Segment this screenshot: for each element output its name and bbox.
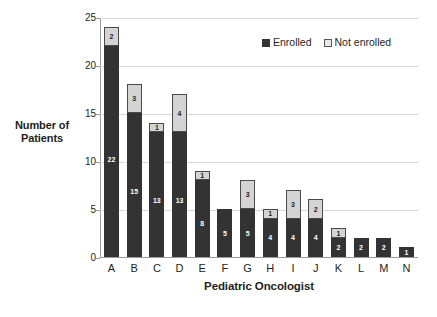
bar-group-j[interactable]: 24: [308, 18, 323, 257]
bar-value-label: 13: [176, 197, 184, 204]
bar-segment-not-enrolled[interactable]: 1: [195, 171, 210, 181]
bar-segment-not-enrolled[interactable]: 1: [263, 209, 278, 219]
bar-segment-enrolled[interactable]: 1: [399, 247, 414, 257]
bar-group-g[interactable]: 35: [240, 18, 255, 257]
bar-segment-not-enrolled[interactable]: 4: [172, 94, 187, 132]
bar-value-label: 13: [153, 197, 161, 204]
bar-value-label: 4: [291, 234, 295, 241]
bar-value-label: 1: [404, 249, 408, 256]
x-axis-tick-label-m: M: [376, 261, 391, 277]
bar-value-label: 2: [314, 206, 318, 213]
bar-value-label: 5: [246, 230, 250, 237]
y-axis-tick-label: 15: [70, 109, 96, 119]
bar-segment-enrolled[interactable]: 4: [263, 219, 278, 257]
bar-segment-not-enrolled[interactable]: 3: [286, 190, 301, 219]
legend-item-not-enrolled: Not enrolled: [324, 37, 392, 48]
bar-group-h[interactable]: 14: [263, 18, 278, 257]
bar-segment-not-enrolled[interactable]: 3: [240, 180, 255, 209]
bar-group-e[interactable]: 18: [195, 18, 210, 257]
light-square-swatch-icon: [324, 39, 332, 47]
bar-value-label: 1: [200, 172, 204, 179]
bar-segment-enrolled[interactable]: 8: [195, 180, 210, 257]
bar-segment-enrolled[interactable]: 22: [104, 46, 119, 257]
figure-caption: [22, 306, 352, 317]
bar-value-label: 2: [382, 244, 386, 251]
bar-segment-not-enrolled[interactable]: 1: [331, 228, 346, 238]
legend-label-not-enrolled: Not enrolled: [335, 37, 392, 48]
x-axis-tick-label-j: J: [308, 261, 323, 277]
bar-segment-not-enrolled[interactable]: 2: [104, 27, 119, 46]
bar-segment-enrolled[interactable]: 5: [240, 209, 255, 257]
y-axis-tick-labels: 0510152025: [70, 18, 96, 258]
bar-segment-enrolled[interactable]: 2: [354, 238, 369, 257]
x-axis-title: Pediatric Oncologist: [100, 280, 418, 292]
stacked-bar-chart-figure: Number of Patients 0510152025 2223151134…: [0, 0, 437, 317]
bar-segment-enrolled[interactable]: 13: [149, 132, 164, 257]
bar-value-label: 2: [336, 244, 340, 251]
bar-value-label: 2: [110, 33, 114, 40]
x-axis-tick-labels: ABCDEFGHIJKLMN: [100, 261, 418, 277]
x-axis-tick-label-g: G: [240, 261, 255, 277]
bar-segment-enrolled[interactable]: 13: [172, 132, 187, 257]
x-axis-tick-label-h: H: [263, 261, 278, 277]
bar-group-b[interactable]: 315: [127, 18, 142, 257]
x-axis-tick-label-b: B: [127, 261, 142, 277]
x-axis-tick-label-i: I: [286, 261, 301, 277]
x-axis-tick-label-n: N: [399, 261, 414, 277]
x-axis-tick-label-c: C: [149, 261, 164, 277]
x-axis-tick-label-k: K: [331, 261, 346, 277]
bar-group-l[interactable]: 2: [354, 18, 369, 257]
bar-value-label: 22: [108, 156, 116, 163]
bar-segment-not-enrolled[interactable]: 1: [149, 123, 164, 133]
bar-value-label: 4: [178, 110, 182, 117]
bar-group-n[interactable]: 1: [399, 18, 414, 257]
bar-value-label: 3: [246, 191, 250, 198]
legend-label-enrolled: Enrolled: [273, 37, 312, 48]
bar-segment-enrolled[interactable]: 15: [127, 113, 142, 257]
y-axis-tick-label: 0: [70, 253, 96, 263]
x-axis-tick-label-a: A: [104, 261, 119, 277]
bar-group-k[interactable]: 12: [331, 18, 346, 257]
bar-value-label: 3: [132, 95, 136, 102]
x-axis-tick-label-l: L: [354, 261, 369, 277]
bar-segment-enrolled[interactable]: 4: [286, 219, 301, 257]
bar-value-label: 2: [359, 244, 363, 251]
bar-value-label: 4: [268, 234, 272, 241]
chart-legend: Enrolled Not enrolled: [262, 37, 391, 48]
bar-value-label: 1: [155, 124, 159, 131]
bar-value-label: 1: [268, 210, 272, 217]
bar-group-m[interactable]: 2: [376, 18, 391, 257]
bar-segment-enrolled[interactable]: 2: [376, 238, 391, 257]
bar-segment-not-enrolled[interactable]: 3: [127, 84, 142, 113]
bar-series-container: 2223151134131853514342412221: [100, 18, 418, 257]
x-axis-tick-label-d: D: [172, 261, 187, 277]
y-axis-tick-mark: [96, 258, 100, 259]
y-axis-tick-label: 25: [70, 13, 96, 23]
y-axis-title-line-2: Patients: [4, 132, 80, 145]
bar-segment-enrolled[interactable]: 2: [331, 238, 346, 257]
bar-value-label: 5: [223, 230, 227, 237]
bar-group-f[interactable]: 5: [217, 18, 232, 257]
bar-segment-not-enrolled[interactable]: 2: [308, 199, 323, 218]
y-axis-tick-label: 5: [70, 205, 96, 215]
bar-value-label: 4: [314, 234, 318, 241]
bar-segment-enrolled[interactable]: 4: [308, 219, 323, 257]
bar-group-i[interactable]: 34: [286, 18, 301, 257]
bar-group-c[interactable]: 113: [149, 18, 164, 257]
bar-segment-enrolled[interactable]: 5: [217, 209, 232, 257]
bar-value-label: 15: [130, 188, 138, 195]
bar-value-label: 3: [291, 201, 295, 208]
y-axis-tick-label: 20: [70, 61, 96, 71]
x-axis-tick-label-f: F: [217, 261, 232, 277]
bar-value-label: 1: [336, 230, 340, 237]
bar-group-a[interactable]: 222: [104, 18, 119, 257]
x-axis-line: [100, 257, 418, 258]
x-axis-tick-label-e: E: [195, 261, 210, 277]
bar-group-d[interactable]: 413: [172, 18, 187, 257]
dark-square-swatch-icon: [262, 39, 270, 47]
legend-item-enrolled: Enrolled: [262, 37, 312, 48]
y-axis-title-line-1: Number of: [4, 119, 80, 132]
bar-value-label: 8: [200, 220, 204, 227]
y-axis-title: Number of Patients: [4, 119, 80, 145]
y-axis-tick-label: 10: [70, 157, 96, 167]
